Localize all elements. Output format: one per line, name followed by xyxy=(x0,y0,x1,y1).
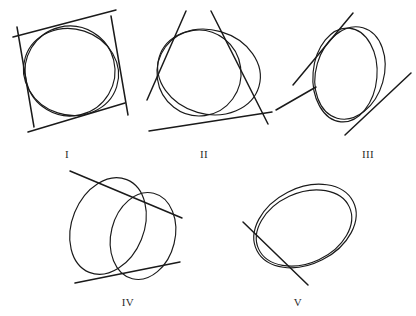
figure-4-tangent-upper xyxy=(70,171,182,218)
figure-2-oval xyxy=(147,17,270,126)
figure-3-ellipse-front xyxy=(309,25,381,124)
figure-3-tangent-right xyxy=(345,73,411,135)
figure-1-tangent-top xyxy=(13,10,116,37)
figure-2-tangent-left xyxy=(147,11,186,100)
figure-4-ellipse-left xyxy=(56,166,160,286)
figure-1-tangent-right xyxy=(111,16,128,115)
figure-2-label: II xyxy=(200,148,208,160)
figure-4-label: IV xyxy=(122,296,134,308)
figure-plate: I II III xyxy=(0,0,416,316)
figure-5-group: V xyxy=(240,168,371,308)
figure-1-group: I xyxy=(12,10,130,160)
figure-3-group: III xyxy=(276,13,411,160)
figure-5-tangent xyxy=(243,222,308,285)
figure-3-ellipse-back xyxy=(304,18,395,127)
figure-2-circle xyxy=(151,25,246,122)
figure-1-label: I xyxy=(65,148,69,160)
figures-svg: I II III xyxy=(0,0,416,316)
figure-4-group: IV xyxy=(56,166,185,308)
figure-2-group: II xyxy=(147,11,272,160)
figure-5-label: V xyxy=(294,296,302,308)
figure-5-ellipse-inner xyxy=(244,175,364,281)
figure-3-tangent-lower xyxy=(276,87,316,110)
figure-3-label: III xyxy=(362,148,374,160)
